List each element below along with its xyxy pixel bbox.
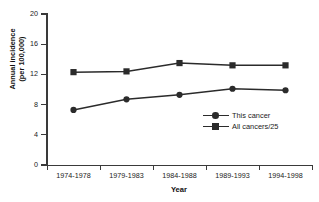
data-point-square bbox=[229, 62, 235, 68]
legend-marker-circle-icon bbox=[203, 110, 229, 121]
legend-marker-square-icon bbox=[203, 121, 229, 132]
legend-item-this-cancer: This cancer bbox=[203, 110, 311, 121]
data-point-circle bbox=[176, 92, 182, 98]
legend-item-all-cancers: All cancers/25 bbox=[203, 121, 311, 132]
data-point-circle bbox=[70, 107, 76, 113]
legend-label: All cancers/25 bbox=[229, 123, 278, 130]
data-point-circle bbox=[229, 86, 235, 92]
data-point-square bbox=[176, 60, 182, 66]
data-point-square bbox=[282, 62, 288, 68]
data-point-square bbox=[70, 69, 76, 75]
legend-label: This cancer bbox=[229, 112, 270, 119]
series-plot bbox=[0, 0, 319, 202]
chart-legend: This cancer All cancers/25 bbox=[203, 110, 311, 132]
data-point-circle bbox=[282, 87, 288, 93]
chart-figure: Annual incidence (per 100,000) 048121620… bbox=[0, 0, 319, 202]
x-axis-title: Year bbox=[46, 185, 312, 194]
data-point-square bbox=[123, 68, 129, 74]
data-point-circle bbox=[123, 96, 129, 102]
